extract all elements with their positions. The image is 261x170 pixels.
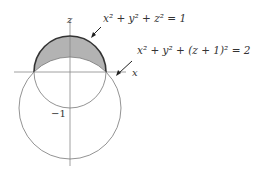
tick-minus-one: −1: [51, 108, 66, 119]
x-axis-label: x: [132, 67, 138, 78]
z-axis-label: z: [66, 14, 73, 25]
shifted-sphere-arrow-head: [116, 70, 121, 76]
shifted-sphere-arrow: [119, 61, 132, 73]
shifted-sphere-equation: x² + y² + (z + 1)² = 2: [137, 44, 251, 56]
sphere-equation: x² + y² + z² = 1: [103, 12, 186, 24]
diagram: z x −1 x² + y² + z² = 1 x² + y² + (z + 1…: [0, 0, 261, 170]
